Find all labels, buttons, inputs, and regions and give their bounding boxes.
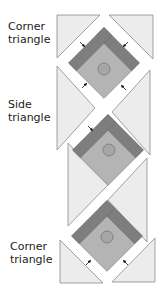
block-bottom-circle (101, 231, 113, 243)
arrow-icon (80, 42, 84, 46)
arrow-icon (86, 261, 90, 265)
arrow-icon (88, 126, 92, 130)
arrow-icon (124, 261, 128, 265)
arrow-icon (82, 84, 86, 88)
arrow-icon (122, 86, 126, 90)
quilt-diagram (0, 0, 168, 297)
block-middle-circle (103, 144, 115, 156)
arrow-icon (124, 42, 128, 46)
block-top-circle (98, 63, 110, 75)
